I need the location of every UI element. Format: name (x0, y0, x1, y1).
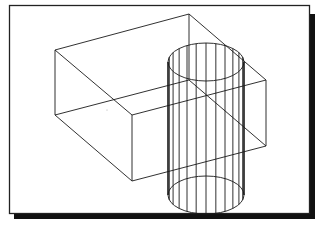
drawing-viewport (0, 0, 316, 230)
viewport-frame (10, 6, 310, 214)
vertical-cylinder (168, 43, 244, 214)
stray-dot (107, 110, 108, 111)
